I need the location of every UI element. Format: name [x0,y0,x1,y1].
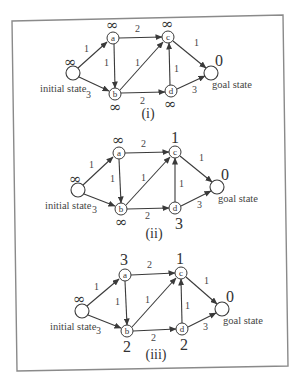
weight-start-a: 1 [94,281,99,292]
value-goal: 0 [221,166,229,183]
weight-d-c: 1 [185,300,190,311]
graph-figure: 1 3 1 2 1 2 1 1 3 a b c d ∞ ∞ ∞ ∞ ∞ 0 in… [0,0,298,379]
value-start: ∞ [69,170,82,188]
node-c-label: c [173,147,177,157]
edge-a-b [119,159,121,203]
value-goal: 0 [226,288,234,305]
weight-c-goal: 1 [199,152,204,163]
caption-ii: (ii) [145,226,162,242]
edge-start-a [78,42,107,68]
weight-start-b: 3 [86,89,91,100]
value-d: 3 [175,215,183,232]
weight-a-b: 1 [104,57,109,68]
value-c: 1 [171,129,179,146]
weight-b-d: 2 [140,95,145,106]
weight-start-b: 3 [96,325,101,336]
weight-c-goal: 1 [194,37,199,48]
weight-start-a: 1 [84,43,89,54]
initial-state-label: initial state [45,200,92,211]
weight-a-c: 2 [141,138,146,149]
value-b: 2 [123,338,131,355]
value-a: ∞ [112,131,125,149]
edge-c-goal [186,277,217,304]
node-b-label: b [125,326,130,336]
weight-a-b: 1 [115,296,120,307]
weight-a-c: 2 [147,259,152,270]
value-b: ∞ [115,213,128,231]
value-d: 2 [180,336,188,353]
goal-state-label: goal state [223,315,263,326]
edge-c-goal [180,156,212,182]
weight-b-d: 2 [151,332,156,343]
value-start: ∞ [64,53,77,71]
value-d: ∞ [164,95,177,113]
edge-d-goal [188,313,216,327]
node-a-label: a [111,33,115,43]
node-d-label: d [173,203,178,213]
value-a: 3 [120,251,128,268]
node-a-label: a [117,148,121,158]
node-c-label: c [166,32,170,42]
edge-d-goal [181,191,211,206]
weight-d-goal: 3 [197,199,202,210]
weight-d-goal: 3 [203,321,208,332]
node-a-label: a [123,270,127,280]
weight-b-c: 1 [141,172,146,183]
value-c: ∞ [161,15,174,33]
value-goal: 0 [215,52,223,69]
weight-b-d: 2 [145,210,150,221]
edge-b-c [132,278,176,327]
value-b: ∞ [109,98,122,116]
weight-d-c: 1 [179,178,184,189]
weight-start-b: 3 [92,204,97,215]
edge-d-c [181,279,182,323]
edge-d-goal [177,76,205,89]
edge-a-b [125,281,127,325]
caption-iii: (iii) [146,347,167,363]
edge-b-d [133,329,176,331]
goal-state-label: goal state [218,193,258,204]
weight-a-c: 2 [135,23,140,34]
edge-b-d [127,208,169,209]
weight-a-b: 1 [110,173,115,184]
edge-a-c [131,273,175,275]
panel-iii: 1 3 1 2 1 2 1 1 3 a b c d ∞ 3 2 1 2 0 in… [50,250,263,363]
edge-a-c [119,37,162,38]
initial-state-label: initial state [40,83,87,94]
edge-start-a [83,157,113,185]
panel-ii: 1 3 1 2 1 2 1 1 3 a b c d ∞ ∞ ∞ 1 3 0 in… [45,129,258,242]
goal-state-label: goal state [212,79,252,90]
edge-d-c [169,43,170,85]
weight-start-a: 1 [89,159,94,170]
initial-state-label: initial state [50,321,97,332]
caption-i: (i) [141,106,155,122]
weight-b-c: 1 [135,57,140,68]
value-c: 1 [176,250,184,267]
edge-a-b [114,44,115,88]
edge-b-d [121,92,165,93]
edge-a-c [125,152,169,153]
value-a: ∞ [106,16,119,34]
edge-b-c [126,157,170,205]
weight-d-c: 1 [174,63,179,74]
panel-i: 1 3 1 2 1 2 1 1 3 a b c d ∞ ∞ ∞ ∞ ∞ 0 in… [40,15,252,122]
edge-b-c [120,42,163,90]
node-c-label: c [179,268,183,278]
value-start: ∞ [73,290,86,308]
node-d-label: d [180,324,185,334]
weight-b-c: 1 [145,294,150,305]
weight-c-goal: 1 [204,275,209,286]
weight-d-goal: 3 [192,84,197,95]
